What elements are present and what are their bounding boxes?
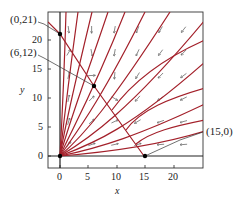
- x-tick-15: 15: [139, 172, 149, 182]
- y-tick-5: 5: [38, 122, 43, 132]
- x-axis-label: x: [115, 185, 119, 196]
- label-eq-6-12: (6,12): [10, 47, 37, 58]
- plot-frame: [48, 12, 203, 168]
- x-tick-20: 20: [168, 172, 178, 182]
- x-tick-5: 5: [85, 172, 90, 182]
- y-tick-20: 20: [32, 35, 42, 45]
- y-tick-0: 0: [38, 151, 43, 161]
- direction-field: [66, 26, 210, 147]
- y-tick-15: 15: [32, 64, 42, 74]
- x-tick-10: 10: [111, 172, 121, 182]
- y-axis-label: y: [20, 84, 24, 95]
- equilibrium-15-0: [143, 154, 147, 158]
- x-tick-0: 0: [57, 172, 62, 182]
- y-tick-10: 10: [32, 93, 42, 103]
- equilibrium-0-21: [58, 32, 62, 36]
- trajectories: [48, 12, 205, 156]
- label-eq-0-21: (0,21): [10, 14, 37, 25]
- equilibrium-origin: [58, 154, 62, 158]
- axis-ticks: [48, 40, 174, 168]
- equilibrium-6-12: [92, 84, 96, 88]
- label-eq-15-0: (15,0): [206, 126, 233, 137]
